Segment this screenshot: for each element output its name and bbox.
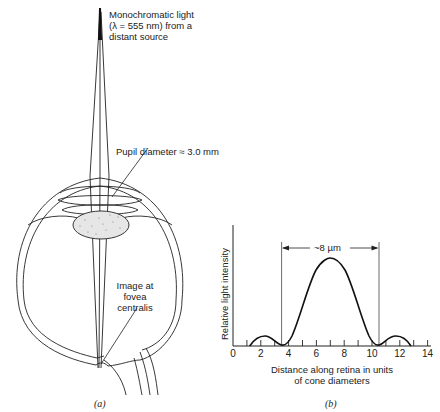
caption-a: (a) — [94, 398, 106, 409]
x-tick-label: 14 — [422, 348, 433, 359]
x-tick-label: 2 — [258, 348, 264, 359]
intensity-curve — [250, 258, 411, 346]
x-tick-label: 10 — [366, 348, 377, 359]
pupil-diameter-label: Pupil diameter ≈ 3.0 mm — [116, 146, 219, 157]
source-label-line: (λ = 555 nm) from a — [109, 20, 194, 31]
source-label-line: distant source — [109, 31, 194, 42]
arrow-right-icon — [372, 246, 379, 251]
x-axis-label-line: Distance along retina in units — [262, 364, 402, 375]
x-tick-label: 6 — [314, 348, 320, 359]
x-tick-label: 12 — [394, 348, 405, 359]
lens — [73, 211, 129, 239]
width-annotation: ~8 µm — [314, 242, 341, 253]
fovea-label-line: Image at — [113, 280, 157, 291]
arrow-left-icon — [282, 246, 289, 251]
source-label-line: Monochromatic light — [109, 9, 194, 20]
fovea-label-line: fovea — [113, 291, 157, 302]
light-rays — [90, 12, 109, 368]
x-axis-label-line: of cone diameters — [262, 375, 402, 386]
y-axis-label: Relative light intensity — [219, 248, 230, 340]
x-axis-label: Distance along retina in units of cone d… — [262, 364, 402, 386]
x-tick-label: 4 — [286, 348, 292, 359]
caption-b: (b) — [325, 398, 337, 409]
x-tick-label: 8 — [341, 348, 347, 359]
fovea-label-line: centralis — [113, 302, 157, 313]
fovea-leader-line — [101, 308, 137, 364]
source-label: Monochromatic light (λ = 555 nm) from a … — [109, 9, 194, 42]
fovea-image-label: Image at fovea centralis — [113, 280, 157, 313]
x-tick-label: 0 — [230, 348, 236, 359]
